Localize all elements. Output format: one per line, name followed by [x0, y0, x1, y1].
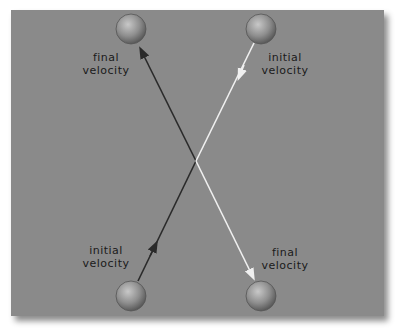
label-bottom-right: final velocity — [255, 246, 315, 272]
dark-path-upper-segment — [142, 52, 196, 161]
light-path-upper-segment — [196, 43, 254, 161]
ball-bottom-right — [246, 281, 276, 311]
label-top-right-line1: initial — [255, 51, 315, 64]
label-top-right-line2: velocity — [255, 64, 315, 77]
label-bottom-left: initial velocity — [76, 244, 136, 270]
label-bottom-left-line2: velocity — [76, 257, 136, 270]
label-bottom-left-line1: initial — [76, 244, 136, 257]
collision-diagram — [0, 0, 399, 335]
ball-bottom-left — [116, 281, 146, 311]
label-top-right: initial velocity — [255, 51, 315, 77]
ball-top-left — [116, 14, 146, 44]
dark-path-lower-segment — [138, 161, 196, 281]
label-bottom-right-line1: final — [255, 246, 315, 259]
light-path-lower-segment — [196, 161, 252, 275]
light-path — [196, 43, 254, 275]
ball-top-right — [246, 14, 276, 44]
dark-path — [138, 52, 196, 281]
label-top-left: final velocity — [76, 51, 136, 77]
label-top-left-line1: final — [76, 51, 136, 64]
label-top-left-line2: velocity — [76, 64, 136, 77]
label-bottom-right-line2: velocity — [255, 259, 315, 272]
dark-path-lower-arrow — [150, 246, 155, 256]
